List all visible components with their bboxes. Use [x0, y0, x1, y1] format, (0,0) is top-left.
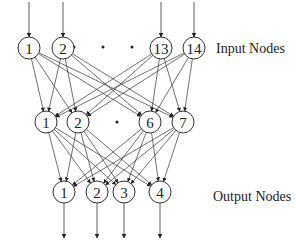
ellipsis-dot	[131, 46, 134, 49]
output-node-4: 4	[149, 181, 171, 203]
edge	[48, 59, 60, 112]
neural-network-diagram: 12131412671234 Input Nodes Output Nodes	[0, 0, 296, 245]
node-label: 13	[154, 41, 169, 57]
node-label: 2	[59, 41, 67, 57]
edge	[84, 131, 118, 183]
edge	[152, 59, 160, 111]
nodes: 12131412671234	[18, 37, 205, 203]
edge	[81, 133, 94, 182]
ellipsis-dot	[116, 121, 119, 124]
hidden-node-2: 2	[67, 111, 89, 133]
ellipsis-dot	[102, 46, 105, 49]
edge	[66, 133, 76, 181]
input-nodes-label: Input Nodes	[216, 41, 285, 56]
edge	[86, 129, 151, 185]
edge	[73, 128, 173, 187]
node-label: 1	[25, 41, 33, 57]
output-node-1: 1	[53, 181, 75, 203]
node-label: 2	[93, 185, 101, 201]
edge	[71, 55, 141, 115]
node-label: 1	[42, 115, 50, 131]
hidden-node-6: 6	[139, 111, 161, 133]
output-node-2: 2	[86, 181, 108, 203]
node-label: 3	[120, 185, 128, 201]
node-label: 14	[187, 41, 203, 57]
hidden-node-7: 7	[172, 111, 194, 133]
edge	[106, 129, 175, 185]
input-node-1: 1	[18, 37, 40, 59]
input-node-14: 14	[183, 37, 205, 59]
node-label: 2	[74, 115, 82, 131]
edge	[163, 132, 179, 181]
edge	[56, 53, 184, 117]
output-nodes-label: Output Nodes	[213, 189, 291, 204]
edge	[156, 57, 189, 112]
hidden-node-1: 1	[35, 111, 57, 133]
node-label: 4	[156, 185, 164, 201]
node-label: 1	[60, 185, 68, 201]
edge	[55, 54, 151, 116]
node-label: 6	[146, 115, 154, 131]
input-node-13: 13	[150, 37, 172, 59]
node-label: 7	[179, 115, 187, 131]
edge	[185, 59, 193, 111]
input-node-2: 2	[52, 37, 74, 59]
output-node-3: 3	[113, 181, 135, 203]
edge	[87, 54, 184, 116]
edge	[65, 59, 76, 111]
